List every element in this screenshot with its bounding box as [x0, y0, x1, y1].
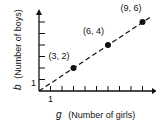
- y-ticks: [39, 22, 45, 80]
- data-point-label: (9, 6): [121, 3, 142, 13]
- data-point: [105, 42, 111, 48]
- x-axis-title: g (Number of girls): [56, 109, 135, 120]
- y-axis-label: (Number of boys): [13, 9, 23, 79]
- data-point-label: (3, 2): [49, 51, 70, 61]
- chart: (3, 2)(6, 4)(9, 6) 1 1 g (Number of girl…: [0, 0, 156, 128]
- y-axis-arrow-icon: [36, 9, 42, 15]
- y-axis-variable: b: [12, 84, 23, 90]
- data-point-label: (6, 4): [83, 26, 104, 36]
- data-point: [140, 19, 146, 25]
- y-tick-label: 1: [31, 78, 36, 88]
- data-point: [71, 65, 77, 71]
- x-axis-arrow-icon: [152, 88, 156, 94]
- x-axis-label: (Number of girls): [68, 110, 135, 120]
- x-tick-label: 1: [48, 94, 53, 104]
- data-points: (3, 2)(6, 4)(9, 6): [49, 3, 146, 71]
- y-axis-title: b (Number of boys): [12, 9, 23, 90]
- x-axis-variable: g: [56, 109, 62, 120]
- x-ticks: [51, 86, 143, 91]
